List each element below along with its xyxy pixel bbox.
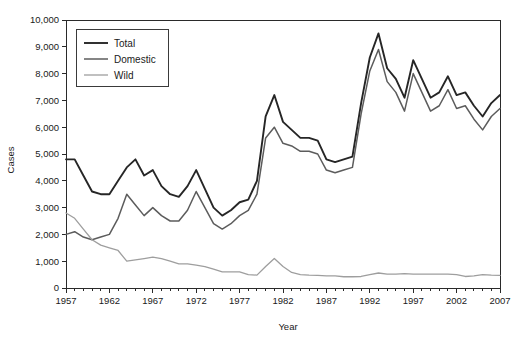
x-tick-label: 1972 xyxy=(186,295,207,306)
x-tick-label: 1962 xyxy=(99,295,120,306)
legend-label-domestic: Domestic xyxy=(114,54,156,65)
x-tick-label: 1997 xyxy=(403,295,424,306)
chart-legend: TotalDomesticWild xyxy=(76,29,168,86)
y-tick-label: 3,000 xyxy=(35,202,59,213)
x-tick-label: 1967 xyxy=(142,295,163,306)
x-tick-label: 2002 xyxy=(446,295,467,306)
y-tick-label: 4,000 xyxy=(35,175,59,186)
y-tick-label: 6,000 xyxy=(35,122,59,133)
x-axis-title: Year xyxy=(278,321,297,332)
legend-label-total: Total xyxy=(114,38,135,49)
y-axis-title: Cases xyxy=(5,146,16,173)
line-chart: 01,0002,0003,0004,0005,0006,0007,0008,00… xyxy=(0,0,520,339)
x-tick-label: 1992 xyxy=(359,295,380,306)
y-tick-label: 7,000 xyxy=(35,95,59,106)
y-tick-label: 2,000 xyxy=(35,229,59,240)
y-tick-label: 5,000 xyxy=(35,148,59,159)
x-tick-label: 2007 xyxy=(489,295,510,306)
x-tick-label: 1977 xyxy=(229,295,250,306)
x-tick-label: 1987 xyxy=(316,295,337,306)
chart-figure: 01,0002,0003,0004,0005,0006,0007,0008,00… xyxy=(0,0,520,339)
y-tick-label: 10,000 xyxy=(30,14,59,25)
y-tick-label: 9,000 xyxy=(35,41,59,52)
y-tick-label: 1,000 xyxy=(35,256,59,267)
y-tick-label: 0 xyxy=(54,282,59,293)
x-tick-label: 1957 xyxy=(55,295,76,306)
legend-label-wild: Wild xyxy=(114,70,133,81)
y-tick-label: 8,000 xyxy=(35,68,59,79)
x-tick-label: 1982 xyxy=(272,295,293,306)
